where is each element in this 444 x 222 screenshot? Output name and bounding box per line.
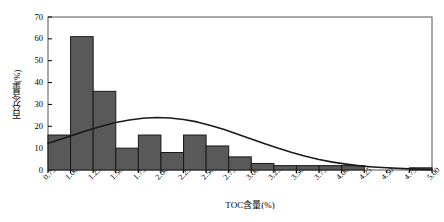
histogram-bar (229, 157, 252, 170)
histogram-bar (251, 163, 274, 170)
histogram-bar (296, 166, 319, 170)
histogram-bar (93, 91, 116, 170)
plot-area (0, 0, 444, 222)
histogram-bar (184, 135, 207, 170)
histogram-bar (138, 135, 161, 170)
histogram-bar (116, 148, 139, 170)
histogram-bar (319, 166, 342, 170)
toc-content-histogram: 百分含量(%) TOC含量(%) 010203040506070 0.751.0… (0, 0, 444, 222)
histogram-bar (161, 153, 184, 170)
histogram-bars (48, 37, 432, 170)
histogram-bar (274, 166, 297, 170)
histogram-bar (206, 146, 229, 170)
histogram-bar (71, 37, 94, 170)
